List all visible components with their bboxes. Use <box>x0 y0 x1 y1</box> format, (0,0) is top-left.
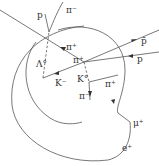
label-lambda: Λ° <box>35 59 47 69</box>
label-pi-plus-right: π⁺ <box>105 79 116 89</box>
label-pi-minus-top: π⁻ <box>66 5 77 15</box>
arrow-proton-icon <box>128 54 133 58</box>
label-pi-minus-lower: π⁻ <box>79 91 90 101</box>
label-pi-plus-upper: π⁺ <box>66 42 77 52</box>
label-e-plus: e⁺ <box>122 143 132 153</box>
label-mu-plus: μ⁺ <box>133 118 144 128</box>
particle-track-diagram: p π⁻ π⁺ p̄ p Λ° K⁻ π⁺ K° π⁻ π⁺ μ⁺ e⁺ <box>0 0 159 166</box>
label-pi-plus-center: π⁺ <box>73 55 84 65</box>
label-p-top: p <box>37 10 43 20</box>
proton-track-top <box>45 14 49 32</box>
label-k-zero: K° <box>77 74 88 84</box>
label-antiproton: p̄ <box>141 36 147 46</box>
arrow-mu-icon <box>111 99 115 104</box>
pi-minus-track-top <box>49 2 63 32</box>
label-proton-right: p <box>137 54 143 64</box>
arrow-antiproton-icon <box>131 39 137 42</box>
label-k-minus: K⁻ <box>55 78 67 88</box>
